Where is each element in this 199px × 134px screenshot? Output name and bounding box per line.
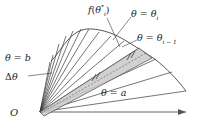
label-delta-theta: Δθ [5, 72, 18, 82]
theta-i-eq: = [137, 8, 151, 19]
highlighted-sector [40, 48, 152, 116]
x-axis [40, 109, 186, 115]
theta-a-eq: = [107, 87, 121, 98]
theta-b-eq: = [11, 52, 25, 63]
theta-i-sub: i [156, 15, 158, 21]
theta-im1-sub: i − 1 [162, 39, 176, 45]
f-theta-close: ) [106, 4, 110, 15]
delta-symbol: Δ [5, 71, 12, 82]
label-theta-equals-b: θ = b [5, 53, 31, 63]
theta-i-leader-line [113, 17, 131, 40]
label-theta-equals-theta-i: θ = θi [131, 9, 158, 22]
label-theta-equals-theta-i-minus-1: θ = θi − 1 [137, 33, 177, 46]
diagram-canvas [0, 0, 199, 134]
polar-area-diagram: f(θ*i) θ = θi θ = θi − 1 θ = b Δθ θ = a … [0, 0, 199, 134]
label-theta-equals-a: θ = a [101, 88, 126, 98]
delta-theta-symbol: θ [12, 71, 18, 82]
theta-im1-eq: = [143, 32, 157, 43]
label-f-theta-star: f(θ*i) [88, 5, 110, 18]
label-origin-O: O [10, 108, 18, 118]
f-theta-sup: * [101, 4, 104, 10]
theta-a-rhs: a [121, 87, 127, 98]
theta-b-rhs: b [25, 52, 31, 63]
